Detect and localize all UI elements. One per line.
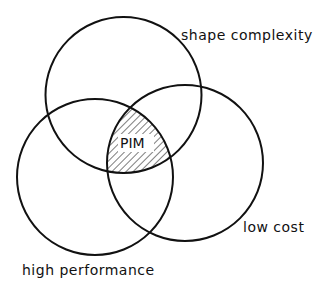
pim-label: PIM: [120, 135, 145, 151]
shape-complexity-label: shape complexity: [181, 27, 313, 43]
high-performance-label: high performance: [22, 262, 155, 278]
low-cost-label: low cost: [243, 219, 304, 235]
venn-diagram: PIM shape complexity high performance lo…: [0, 0, 332, 290]
